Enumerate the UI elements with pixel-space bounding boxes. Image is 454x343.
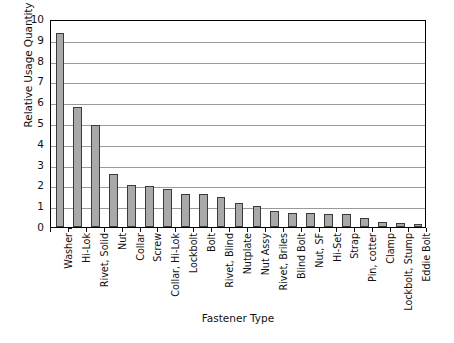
x-label-slot: Clamp (374, 233, 388, 309)
y-tick-label: 3 (22, 159, 44, 172)
x-label-slot: Collar, Hi-Lok (159, 233, 173, 309)
bar (324, 214, 333, 227)
bar (396, 223, 405, 227)
x-label-slot: Eddie Bolt (410, 233, 424, 309)
bar-chart: Relative Usage Quantity 109876543210 Was… (0, 0, 454, 343)
x-tick-mark (372, 228, 373, 232)
bar (378, 222, 387, 227)
x-label-slot: Washer (52, 233, 66, 309)
plot-area (50, 20, 426, 228)
bar (414, 224, 423, 227)
x-label-slot: Lockbolt (177, 233, 191, 309)
x-label-slot: Hi-Set (321, 233, 335, 309)
bar (145, 186, 154, 227)
x-tick-mark (265, 228, 266, 232)
x-tick-mark (50, 228, 51, 232)
x-tick-mark (336, 228, 337, 232)
bar (235, 203, 244, 227)
bar (306, 213, 315, 227)
x-tick-mark (354, 228, 355, 232)
x-tick-mark (157, 228, 158, 232)
x-tick-mark (426, 228, 427, 232)
x-axis-title: Fastener Type (50, 312, 426, 324)
x-label-slot: Hi-Lok (70, 233, 84, 309)
bar (73, 107, 82, 227)
bar (199, 194, 208, 227)
x-tick-mark (122, 228, 123, 232)
x-label-slot: Nut (106, 233, 120, 309)
x-label-slot: Nut Assy (249, 233, 263, 309)
x-tick-mark (68, 228, 69, 232)
y-tick-label: 4 (22, 138, 44, 151)
x-label-slot: Bolt (195, 233, 209, 309)
x-label-slot: Nut, SF (303, 233, 317, 309)
bar (109, 174, 118, 227)
y-tick-label: 9 (22, 34, 44, 47)
y-tick-label: 7 (22, 75, 44, 88)
x-tick-mark (140, 228, 141, 232)
x-label-slot: Rivet, Blind (213, 233, 227, 309)
bar (288, 213, 297, 227)
x-label-slot: Pin, cotter (356, 233, 370, 309)
bar (253, 206, 262, 227)
y-tick-label: 6 (22, 96, 44, 109)
x-axis-category-labels: WasherHi-LokRivet, SolidNutCollarScrewCo… (50, 233, 426, 309)
y-tick-label: 5 (22, 117, 44, 130)
x-tick-mark (229, 228, 230, 232)
y-tick-label: 2 (22, 179, 44, 192)
bar (217, 197, 226, 227)
x-tick-mark (193, 228, 194, 232)
x-tick-mark (390, 228, 391, 232)
x-tick-mark (408, 228, 409, 232)
x-label-slot: Rivet, Briles (267, 233, 281, 309)
y-tick-label: 0 (22, 221, 44, 234)
x-tick-mark (175, 228, 176, 232)
bar (91, 125, 100, 227)
x-tick-mark (301, 228, 302, 232)
y-tick-label: 8 (22, 55, 44, 68)
y-tick-label: 10 (22, 13, 44, 26)
bar (163, 189, 172, 227)
bar (270, 211, 279, 227)
bar (56, 33, 65, 227)
x-tick-mark (247, 228, 248, 232)
x-tick-mark (211, 228, 212, 232)
x-tick-mark (319, 228, 320, 232)
x-tick-mark (283, 228, 284, 232)
x-label-slot: Screw (141, 233, 155, 309)
bar (127, 185, 136, 227)
x-tick-mark (104, 228, 105, 232)
x-label-slot: Rivet, Solid (88, 233, 102, 309)
y-axis-tick-labels: 109876543210 (22, 14, 44, 228)
bar (181, 194, 190, 227)
bar (360, 218, 369, 227)
x-tick-mark (86, 228, 87, 232)
x-label-slot: Lockbolt, Stump (392, 233, 406, 309)
x-label-slot: Strap (338, 233, 352, 309)
bar (342, 214, 351, 227)
x-label-slot: Nutplate (231, 233, 245, 309)
bars-series (51, 21, 425, 227)
x-label-slot: Blind Bolt (285, 233, 299, 309)
y-tick-label: 1 (22, 200, 44, 213)
x-category-label: Eddie Bolt (422, 233, 432, 282)
x-label-slot: Collar (124, 233, 138, 309)
